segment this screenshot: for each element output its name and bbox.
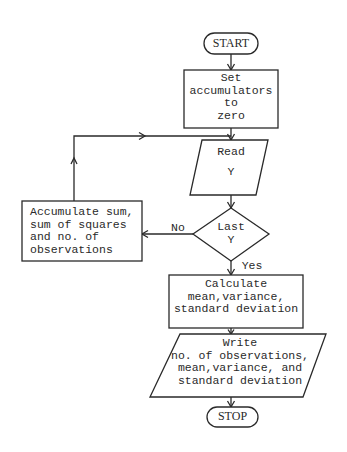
stop-label: STOP [207, 410, 258, 423]
calculate-line-3: standard deviation [169, 303, 303, 316]
accumulate-line-1: Accumulate sum, [30, 206, 142, 219]
edge-label-yes: Yes [239, 260, 265, 273]
write-io-node: Write no. of observations, mean,variance… [170, 337, 310, 387]
decision-node: Last Y [201, 221, 261, 246]
init-process-node: Set accumulators to zero [184, 72, 278, 122]
write-line-1: Write [170, 337, 310, 350]
read-line-1: Read [198, 146, 264, 159]
accumulate-line-4: observations [30, 244, 142, 257]
accumulate-process-node: Accumulate sum, sum of squares and no. o… [30, 206, 142, 256]
write-line-3: mean,variance, and [170, 362, 310, 375]
decision-line-1: Last [201, 221, 261, 234]
edge-label-no: No [168, 222, 188, 235]
accumulate-line-3: and no. of [30, 231, 142, 244]
start-label: START [204, 37, 258, 50]
calculate-process-node: Calculate mean,variance, standard deviat… [169, 278, 303, 316]
calculate-line-1: Calculate [169, 278, 303, 291]
read-io-node: Read Y [198, 146, 264, 178]
init-line-3: to [184, 97, 278, 110]
init-line-1: Set [184, 72, 278, 85]
decision-line-2: Y [201, 234, 261, 247]
init-line-4: zero [184, 110, 278, 123]
read-line-2: Y [198, 166, 264, 179]
write-line-4: standard deviation [170, 375, 310, 388]
